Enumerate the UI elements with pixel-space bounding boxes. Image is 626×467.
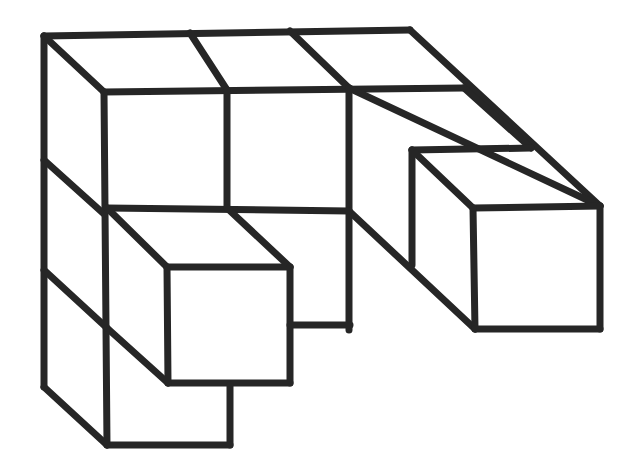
cube-edge: [473, 206, 600, 208]
cube-edge: [227, 208, 290, 267]
cube-edge: [44, 160, 104, 214]
cube-edge: [44, 270, 107, 328]
cube-edge: [104, 92, 107, 445]
cube-edge: [412, 150, 473, 208]
cube-edge: [44, 30, 410, 36]
cube-edge: [167, 267, 168, 383]
cube-figure: [0, 0, 626, 467]
cube-edge: [44, 387, 107, 445]
cube-edge: [464, 88, 531, 148]
cube-edge: [290, 31, 349, 88]
cube-edge: [473, 208, 475, 329]
cube-edges: [44, 30, 600, 445]
cube-edge: [104, 88, 464, 92]
cube-edge: [107, 208, 167, 267]
cube-edge: [190, 33, 227, 90]
cube-edge: [44, 36, 104, 92]
cube-edge: [107, 328, 168, 383]
cube-edge: [412, 148, 531, 150]
